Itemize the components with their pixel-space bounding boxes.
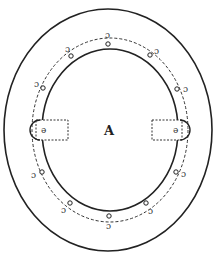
hole-circle-icon [144, 201, 148, 205]
stitch-mark: ɔ [34, 79, 39, 89]
technical-diagram: ə ə ɔɔɔɔɔɔɔɔɔɔ A [0, 0, 216, 256]
right-loop-mark: ə [173, 125, 178, 135]
stitch-mark: ɔ [105, 30, 110, 40]
center-label: A [103, 123, 115, 138]
hole-circle-icon [148, 53, 152, 57]
stitch-mark: ɔ [183, 84, 188, 94]
hole-circle-icon [41, 86, 45, 90]
stitch-mark: ɔ [154, 46, 159, 56]
stitch-mark: ɔ [181, 169, 186, 179]
hole-circle-icon [175, 87, 179, 91]
hole-circle-icon [68, 201, 72, 205]
stitch-mark: ɔ [31, 170, 36, 180]
hole-circle-icon [40, 170, 44, 174]
stitch-mark: ɔ [61, 205, 66, 215]
left-loop-mark: ə [41, 125, 46, 135]
stitch-mark: ɔ [148, 206, 153, 216]
diagram-canvas: ə ə ɔɔɔɔɔɔɔɔɔɔ A [0, 0, 216, 256]
hole-circle-icon [107, 214, 111, 218]
hole-circle-icon [174, 170, 178, 174]
hole-circle-icon [106, 42, 110, 46]
stitch-mark: ɔ [65, 44, 70, 54]
stitch-mark: ɔ [106, 221, 111, 231]
hole-circle-icon [69, 54, 73, 58]
